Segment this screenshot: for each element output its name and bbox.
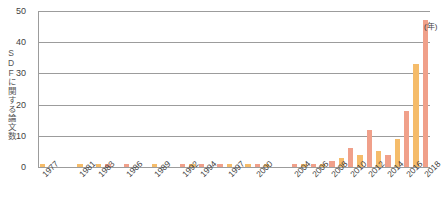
bar-2017 [413,64,418,167]
bar-2012 [367,130,372,167]
bar-series [38,11,430,167]
x-axis-tick-labels: 1977198119831986198919921994199720002004… [0,168,438,204]
x-axis-unit-label: (年) [424,20,437,31]
y-tick-label-20: 20 [4,100,26,110]
y-tick-label-50: 50 [4,6,26,16]
y-tick-label-40: 40 [4,37,26,47]
y-tick-label-10: 10 [4,131,26,141]
y-tick-label-30: 30 [4,68,26,78]
bar-2018 [423,20,428,167]
bar-2016 [404,111,409,167]
